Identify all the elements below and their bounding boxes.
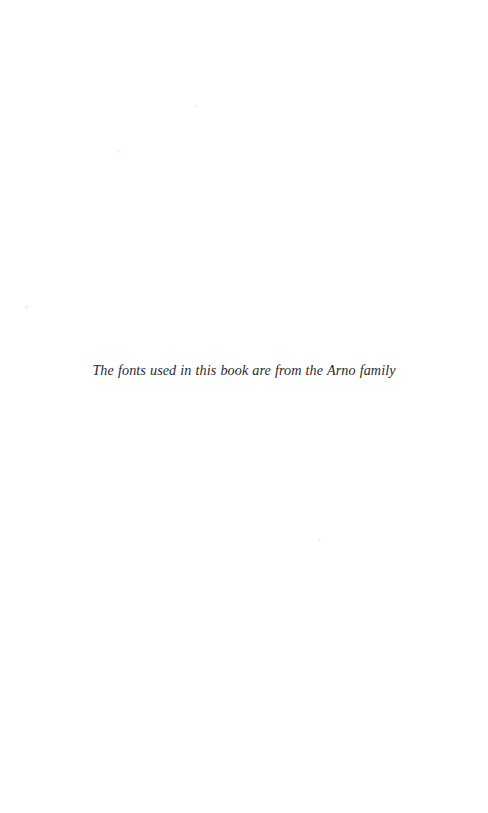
book-page: The fonts used in this book are from the… — [0, 0, 488, 813]
scan-speckle — [318, 539, 321, 542]
scan-speckle — [118, 150, 121, 153]
scan-speckle — [25, 305, 28, 309]
scan-speckle — [195, 105, 198, 108]
colophon-text: The fonts used in this book are from the… — [92, 360, 395, 380]
colophon-block: The fonts used in this book are from the… — [0, 360, 488, 380]
